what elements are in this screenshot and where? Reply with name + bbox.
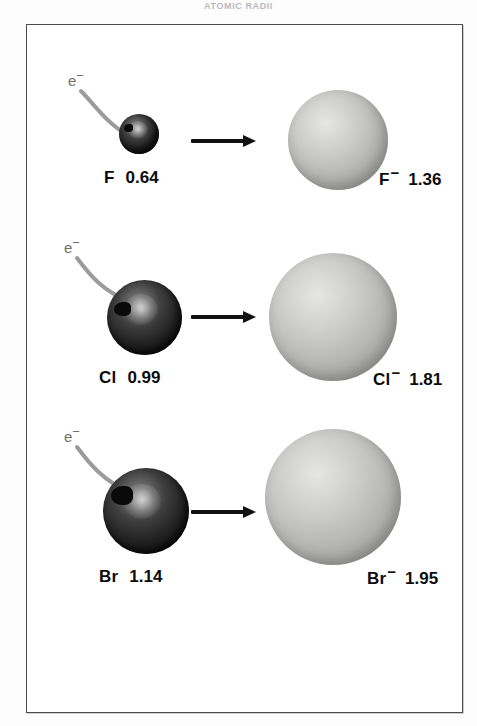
atom-notch bbox=[111, 486, 133, 505]
reaction-arrow-chlorine bbox=[191, 311, 256, 323]
atom-sphere-bromine bbox=[103, 468, 189, 554]
atom-highlight bbox=[128, 121, 148, 139]
atom-notch bbox=[124, 124, 133, 132]
atom-notch bbox=[114, 302, 131, 316]
reaction-arrow-bromine bbox=[191, 506, 256, 518]
atom-label-bromine: Br1.14 bbox=[99, 568, 162, 585]
top-caption-text: ATOMIC RADII bbox=[204, 2, 273, 10]
ion-sphere-fluoride bbox=[288, 90, 388, 190]
top-caption: ATOMIC RADII bbox=[0, 0, 477, 10]
arrow-head bbox=[243, 506, 256, 518]
arrow-shaft bbox=[191, 510, 244, 514]
ion-sphere-bromide bbox=[265, 429, 401, 565]
atom-highlight bbox=[123, 484, 161, 519]
arrow-head bbox=[243, 135, 256, 147]
reaction-arrow-fluorine bbox=[191, 135, 256, 147]
atom-sphere-fluorine bbox=[119, 114, 159, 154]
arrow-shaft bbox=[191, 315, 244, 319]
reaction-row-bromine: e− Br1.14 Br−1.95 bbox=[27, 410, 464, 610]
ion-label-bromide: Br−1.95 bbox=[367, 570, 438, 587]
figure-root: ATOMIC RADII e− F0.64 bbox=[0, 0, 477, 726]
atom-label-chlorine: Cl0.99 bbox=[99, 369, 161, 386]
figure-frame: e− F0.64 F−1.36 e bbox=[26, 24, 463, 713]
arrow-shaft bbox=[191, 139, 244, 143]
atom-sphere-chlorine bbox=[107, 280, 182, 355]
atom-label-fluorine: F0.64 bbox=[104, 169, 159, 186]
atom-highlight bbox=[124, 294, 158, 325]
arrow-head bbox=[243, 311, 256, 323]
ion-label-fluoride: F−1.36 bbox=[379, 171, 441, 188]
ion-label-chloride: Cl−1.81 bbox=[373, 371, 442, 388]
reaction-row-chlorine: e− Cl0.99 Cl−1.81 bbox=[27, 215, 464, 410]
ion-sphere-chloride bbox=[269, 253, 397, 381]
reaction-row-fluorine: e− F0.64 F−1.36 bbox=[27, 25, 464, 215]
